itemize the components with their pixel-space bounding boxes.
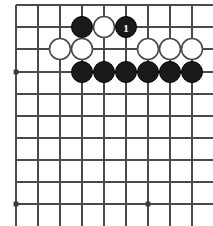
go-board-canvas[interactable]: 1 <box>0 0 213 226</box>
stone-white-w6[interactable] <box>182 39 203 60</box>
stone-body <box>72 17 93 38</box>
stone-body <box>116 62 137 83</box>
stone-body <box>94 17 115 38</box>
star-point-left-lower <box>14 202 19 207</box>
stone-black-b6[interactable] <box>138 62 159 83</box>
stone-black-b7[interactable] <box>160 62 181 83</box>
stone-white-w5[interactable] <box>160 39 181 60</box>
stone-black-b8[interactable] <box>182 62 203 83</box>
stone-black-b3[interactable] <box>72 62 93 83</box>
stone-body <box>138 39 159 60</box>
stone-black-b4[interactable] <box>94 62 115 83</box>
stone-white-w3[interactable] <box>72 39 93 60</box>
stone-white-w1[interactable] <box>94 17 115 38</box>
stone-body <box>72 62 93 83</box>
star-point-center-lower <box>146 202 151 207</box>
stone-body <box>94 62 115 83</box>
stone-body <box>160 39 181 60</box>
stone-body <box>50 39 71 60</box>
stone-black-move-1-b2[interactable]: 1 <box>116 17 137 38</box>
board-grid <box>16 5 213 226</box>
stone-body <box>182 62 203 83</box>
stone-body <box>72 39 93 60</box>
stone-body <box>182 39 203 60</box>
stone-body <box>138 62 159 83</box>
stone-white-w4[interactable] <box>138 39 159 60</box>
stone-black-b5[interactable] <box>116 62 137 83</box>
stone-move-number: 1 <box>123 22 129 34</box>
stone-body <box>160 62 181 83</box>
go-board-diagram: 1 <box>0 0 213 226</box>
stone-white-w2[interactable] <box>50 39 71 60</box>
stone-black-b1[interactable] <box>72 17 93 38</box>
star-point-left-upper <box>14 70 19 75</box>
